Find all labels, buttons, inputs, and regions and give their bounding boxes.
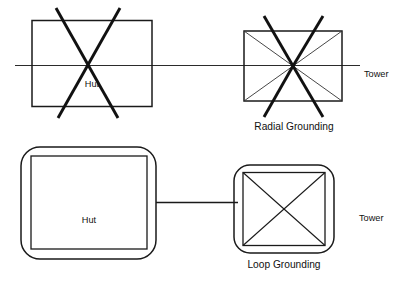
radial-spoke-thin-br (293, 66, 342, 101)
radial-spoke-thick-upper-right (293, 16, 323, 66)
bottom-row-group (21, 147, 334, 259)
bottom-hut-label: Hut (82, 215, 97, 225)
bottom-tower-group (234, 165, 334, 253)
top-tower-group (244, 16, 342, 117)
top-row-group (15, 8, 360, 118)
top-hut-box (32, 21, 152, 107)
top-hut-label: Hut (85, 79, 100, 89)
top-hut-x-stroke-b (58, 8, 120, 118)
top-tower-label: Tower (364, 69, 389, 79)
radial-spoke-thick-lower-right (293, 66, 323, 117)
top-hut-x-stroke-a (56, 8, 118, 118)
radial-spoke-thin-bl (244, 66, 293, 101)
grounding-diagram: Hut Tower Radial Grounding Hut Tower Loo… (0, 0, 400, 283)
radial-grounding-caption: Radial Grounding (254, 121, 334, 132)
radial-spoke-thick-upper-left (264, 16, 293, 66)
bottom-hut-inner-box (31, 156, 147, 249)
bottom-hut-group (21, 147, 156, 259)
diagram-canvas: Hut Tower Radial Grounding Hut Tower Loo… (0, 0, 400, 283)
bottom-tower-label: Tower (359, 213, 384, 223)
radial-spoke-thin-tr (293, 31, 342, 66)
top-hut-group (32, 8, 152, 118)
radial-spoke-thin-tl (244, 31, 293, 66)
radial-spoke-thick-lower-left (264, 66, 293, 117)
loop-grounding-caption: Loop Grounding (247, 259, 320, 270)
bottom-hut-outer-ring (21, 147, 156, 259)
